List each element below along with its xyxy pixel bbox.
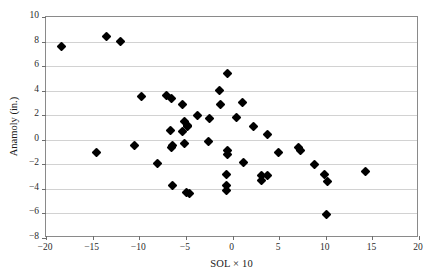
data-point [263,130,273,140]
y-tick-label: 10 [30,11,40,21]
y-tick-label: −6 [29,207,39,217]
x-tick-mark [233,236,234,240]
data-point [222,186,232,196]
data-point [91,147,101,157]
data-points-layer [46,17,417,236]
x-tick-label: 20 [413,243,423,253]
data-point [204,113,214,123]
data-point [215,99,225,109]
plot-area [45,16,418,237]
data-point [192,111,202,121]
y-axis-tick-labels: −8−6−4−20246810 [0,16,39,237]
x-tick-label: −5 [180,243,190,253]
data-point [203,137,213,147]
y-tick-label: 8 [34,36,39,46]
x-tick-mark [372,236,373,240]
data-point [231,112,241,122]
x-tick-mark [46,236,47,240]
y-tick-label: 4 [34,85,39,95]
data-point [323,177,333,187]
y-tick-label: 6 [34,60,39,70]
data-point [177,100,187,110]
y-tick-label: −2 [29,158,39,168]
y-tick-label: 2 [34,109,39,119]
y-tick-label: −4 [29,183,39,193]
x-tick-label: −10 [131,243,146,253]
x-tick-mark [139,236,140,240]
x-tick-mark [419,236,420,240]
x-axis-title: SOL × 10 [45,258,418,270]
data-point [180,139,190,149]
data-point [222,169,232,179]
data-point [361,166,371,176]
data-point [136,91,146,101]
x-tick-label: 0 [229,243,234,253]
x-tick-mark [326,236,327,240]
scatter-plot-figure: Anamoly (in.) −8−6−4−20246810 −20−15−10−… [0,0,437,280]
x-tick-mark [279,236,280,240]
data-point [153,159,163,169]
data-point [238,97,248,107]
y-tick-label: −8 [29,232,39,242]
data-point [168,181,178,191]
x-tick-mark [93,236,94,240]
data-point [310,160,320,170]
data-point [273,147,283,157]
data-point [322,209,332,219]
data-point [102,32,112,42]
x-tick-label: −20 [38,243,53,253]
data-point [214,85,224,95]
x-axis-tick-labels: −20−15−10−505101520 [45,243,418,257]
data-point [239,158,249,168]
data-point [166,126,176,136]
data-point [130,140,140,150]
y-tick-label: 0 [34,134,39,144]
x-tick-label: −15 [84,243,99,253]
data-point [248,122,258,132]
x-tick-mark [186,236,187,240]
x-tick-label: 5 [276,243,281,253]
data-point [223,69,233,79]
data-point [57,42,67,52]
x-tick-label: 10 [320,243,330,253]
x-tick-label: 15 [367,243,377,253]
data-point [116,37,126,47]
